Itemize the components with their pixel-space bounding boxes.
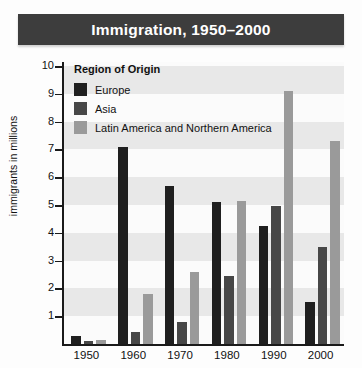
bar-1980-europe (212, 202, 222, 344)
bar-1960-europe (118, 147, 128, 344)
y-axis-tick-label: 5 (28, 199, 54, 210)
y-axis-tick-label: 8 (28, 116, 54, 127)
y-axis-title: immigrants in millions (7, 71, 19, 261)
bar-1990-asia (271, 206, 281, 344)
chart-title-bar: Immigration, 1950–2000 (18, 14, 344, 45)
bar-1990-europe (259, 226, 269, 344)
legend-item-label: Europe (95, 84, 130, 96)
bar-1990-latin (284, 91, 294, 344)
y-axis-tick-label: 3 (28, 255, 54, 266)
y-axis-tick-label: 4 (28, 227, 54, 238)
y-axis-labels: 12345678910 (16, 0, 54, 368)
y-axis-tick (55, 205, 63, 207)
y-axis-tick (55, 261, 63, 263)
bar-1970-latin (190, 272, 200, 344)
x-axis-tick-label: 1960 (107, 349, 159, 361)
legend-item-latin[interactable]: Latin America and Northern America (74, 118, 272, 137)
y-axis-tick (55, 94, 63, 96)
y-axis-tick (55, 122, 63, 124)
y-axis-tick-label: 9 (28, 88, 54, 99)
legend-title: Region of Origin (74, 63, 272, 75)
bar-2000-latin (330, 141, 340, 344)
bar-1980-asia (224, 276, 234, 344)
bar-2000-asia (318, 247, 328, 344)
x-axis-tick-label: 2000 (295, 349, 347, 361)
legend-item-label: Asia (95, 103, 116, 115)
y-axis-tick (55, 233, 63, 235)
page-title: Immigration, 1950–2000 (91, 21, 270, 39)
y-axis-tick (55, 177, 63, 179)
bar-1960-latin (143, 294, 153, 344)
chart-figure: Immigration, 1950–2000 12345678910 immig… (0, 0, 362, 368)
bar-2000-europe (305, 302, 315, 344)
y-axis-tick-label: 7 (28, 143, 54, 154)
x-axis-tick-label: 1970 (154, 349, 206, 361)
bar-1950-asia (84, 341, 94, 344)
legend-swatch-icon (74, 121, 87, 134)
x-axis-tick-label: 1990 (248, 349, 300, 361)
bar-1960-asia (131, 332, 141, 345)
bar-1950-latin (96, 340, 106, 344)
y-axis-tick-label: 1 (28, 310, 54, 321)
legend-item-label: Latin America and Northern America (95, 122, 272, 134)
legend-item-europe[interactable]: Europe (74, 80, 272, 99)
y-axis-tick-label: 6 (28, 171, 54, 182)
legend-swatch-icon (74, 102, 87, 115)
y-axis-tick (55, 316, 63, 318)
y-axis-tick (55, 149, 63, 151)
bar-1980-latin (237, 201, 247, 344)
chart-legend: Region of Origin EuropeAsiaLatin America… (74, 63, 272, 137)
legend-swatch-icon (74, 83, 87, 96)
y-axis-tick-label: 10 (28, 60, 54, 71)
x-axis-tick-label: 1980 (201, 349, 253, 361)
bar-1970-europe (165, 186, 175, 344)
y-axis-tick (55, 288, 63, 290)
x-axis-tick-label: 1950 (60, 349, 112, 361)
bar-1950-europe (71, 336, 81, 344)
bar-1970-asia (177, 322, 187, 344)
x-axis-line (62, 344, 344, 346)
y-axis-tick (55, 66, 63, 68)
y-axis-tick-label: 2 (28, 282, 54, 293)
legend-item-asia[interactable]: Asia (74, 99, 272, 118)
